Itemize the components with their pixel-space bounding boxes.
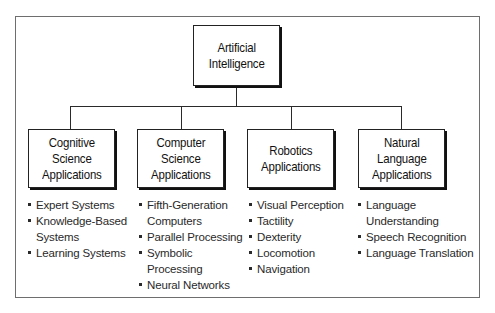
computer-science-list: Fifth-Generation Computers Parallel Proc…	[139, 197, 247, 293]
list-item-text: Learning Systems	[36, 247, 126, 259]
robotics-connector-line	[291, 106, 292, 129]
node-label: Computer Science Applications	[151, 135, 211, 183]
cognitive-connector-line	[70, 106, 71, 129]
list-item-text: Visual Perception	[257, 199, 344, 211]
node-robotics: Robotics Applications	[247, 129, 334, 188]
bullet-icon	[139, 251, 142, 254]
list-item-text: Language Translation	[366, 247, 474, 259]
natural-language-connector-line	[401, 106, 402, 129]
node-computer-science: Computer Science Applications	[137, 129, 224, 188]
node-label: Natural Language Applications	[372, 135, 432, 183]
node-cognitive-science: Cognitive Science Applications	[28, 129, 115, 188]
bullet-icon	[139, 235, 142, 238]
list-item-text: Parallel Processing	[147, 231, 243, 243]
list-item: Tactility	[249, 213, 357, 229]
node-label: Cognitive Science Applications	[42, 135, 102, 183]
bullet-icon	[249, 267, 252, 270]
list-item: Expert Systems	[28, 197, 136, 213]
bullet-icon	[28, 203, 31, 206]
bullet-icon	[139, 203, 142, 206]
natural-language-list: Language Understanding Speech Recognitio…	[358, 197, 476, 261]
list-item-text: Neural Networks	[147, 279, 230, 291]
list-item: Neural Networks	[139, 277, 247, 293]
list-item: Navigation	[249, 261, 357, 277]
list-item-text: Expert Systems	[36, 199, 114, 211]
list-item: Knowledge-Based Systems	[28, 213, 136, 245]
bullet-icon	[358, 203, 361, 206]
node-natural-language: Natural Language Applications	[358, 129, 445, 188]
root-node-label: Artificial Intelligence	[209, 40, 265, 72]
root-node-artificial-intelligence: Artificial Intelligence	[193, 25, 280, 86]
list-item-text: Knowledge-Based Systems	[36, 215, 127, 243]
bullet-icon	[249, 219, 252, 222]
list-item: Visual Perception	[249, 197, 357, 213]
bullet-icon	[28, 251, 31, 254]
robotics-list: Visual Perception Tactility Dexterity Lo…	[249, 197, 357, 277]
bullet-icon	[249, 235, 252, 238]
list-item-text: Navigation	[257, 263, 310, 275]
bullet-icon	[249, 251, 252, 254]
list-item: Fifth-Generation Computers	[139, 197, 247, 229]
list-item: Parallel Processing	[139, 229, 247, 245]
bullet-icon	[358, 251, 361, 254]
horizontal-connector-line	[70, 106, 402, 107]
list-item: Language Understanding	[358, 197, 476, 229]
list-item-text: Speech Recognition	[366, 231, 466, 243]
list-item-text: Dexterity	[257, 231, 301, 243]
list-item-text: Tactility	[257, 215, 293, 227]
bullet-icon	[28, 219, 31, 222]
root-connector-line	[236, 86, 237, 107]
list-item: Speech Recognition	[358, 229, 476, 245]
cognitive-science-list: Expert Systems Knowledge-Based Systems L…	[28, 197, 136, 261]
node-label: Robotics Applications	[261, 143, 321, 175]
bullet-icon	[249, 203, 252, 206]
computer-connector-line	[181, 106, 182, 129]
list-item: Dexterity	[249, 229, 357, 245]
list-item: Language Translation	[358, 245, 476, 261]
list-item-text: Fifth-Generation Computers	[147, 199, 228, 227]
list-item: Symbolic Processing	[139, 245, 247, 277]
list-item: Learning Systems	[28, 245, 136, 261]
list-item: Locomotion	[249, 245, 357, 261]
list-item-text: Locomotion	[257, 247, 315, 259]
list-item-text: Symbolic Processing	[147, 247, 202, 275]
bullet-icon	[358, 235, 361, 238]
bullet-icon	[139, 283, 142, 286]
list-item-text: Language Understanding	[366, 199, 439, 227]
